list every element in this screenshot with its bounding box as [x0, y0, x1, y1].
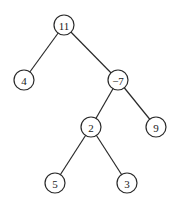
tree-node: 4 [14, 70, 34, 90]
tree-node: 3 [117, 173, 137, 193]
tree-node: 5 [45, 173, 65, 193]
node-label: −7 [112, 75, 124, 87]
tree-edge-n11-nm7 [64, 25, 118, 80]
node-label: 3 [124, 178, 130, 190]
tree-node: 2 [81, 117, 101, 137]
tree-node: 9 [146, 117, 166, 137]
node-label: 4 [21, 75, 27, 87]
node-label: 11 [59, 20, 70, 32]
node-label: 5 [52, 178, 58, 190]
node-label: 2 [88, 122, 94, 134]
binary-tree-diagram: 114−72953 [0, 0, 179, 204]
node-label: 9 [153, 122, 159, 134]
tree-node: −7 [108, 70, 128, 90]
tree-node: 11 [54, 15, 74, 35]
